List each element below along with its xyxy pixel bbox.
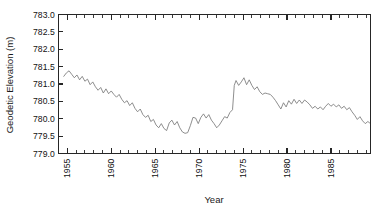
geodetic-elevation-line-chart: 1955196019651970197519801985 779.0779.57…: [0, 0, 388, 209]
y-tick-label: 782.5: [33, 27, 55, 37]
y-tick-label: 779.0: [33, 149, 55, 159]
y-tick-label: 781.5: [33, 62, 55, 72]
y-tick-label: 779.5: [33, 131, 55, 141]
y-axis-title: Geodetic Elevation (m): [4, 37, 15, 134]
y-tick-label: 780.0: [33, 114, 55, 124]
y-tick-label: 782.0: [33, 44, 55, 54]
x-axis-title: Year: [204, 194, 223, 205]
x-tick-label: 1955: [62, 158, 72, 178]
x-tick-label: 1975: [238, 158, 248, 178]
x-axis-major-ticks-top: [67, 15, 331, 20]
x-tick-label: 1965: [150, 158, 160, 178]
x-tick-label: 1980: [282, 158, 292, 178]
x-tick-label: 1970: [194, 158, 204, 178]
chart-figure: 1955196019651970197519801985 779.0779.57…: [0, 0, 388, 209]
y-tick-label: 780.5: [33, 96, 55, 106]
y-axis-tick-labels: 779.0779.5780.0780.5781.0781.5782.0782.5…: [33, 10, 55, 159]
x-axis-major-ticks-bottom: [67, 148, 331, 153]
x-axis-tick-labels: 1955196019651970197519801985: [62, 158, 336, 178]
y-axis-major-ticks: [59, 15, 63, 154]
elevation-series-line: [64, 71, 370, 134]
plot-frame: [59, 15, 371, 154]
x-tick-label: 1960: [106, 158, 116, 178]
x-tick-label: 1985: [326, 158, 336, 178]
y-tick-label: 783.0: [33, 10, 55, 20]
y-tick-label: 781.0: [33, 79, 55, 89]
